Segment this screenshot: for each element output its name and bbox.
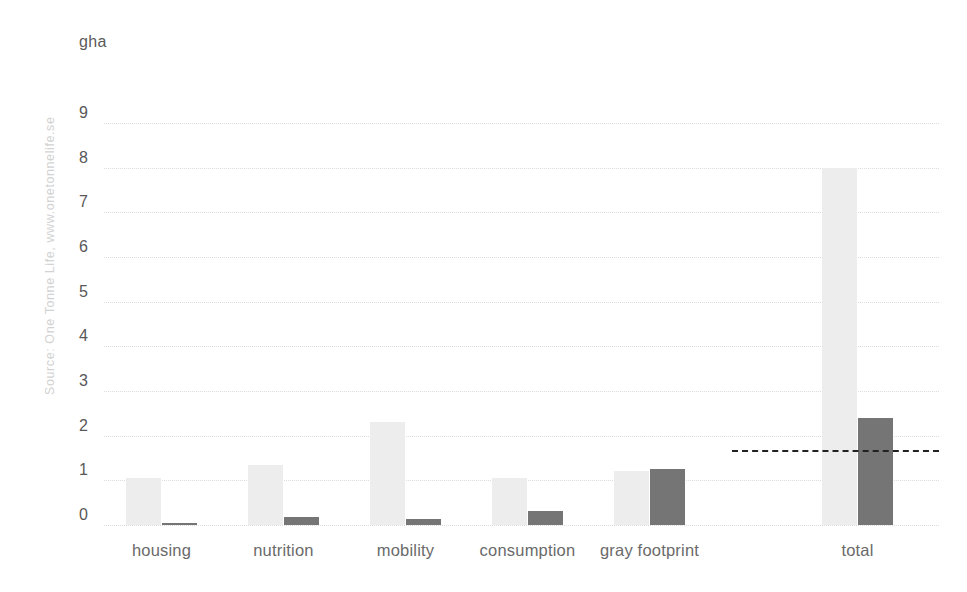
bar (162, 523, 197, 525)
bar-chart: Source: One Tonne Life, www.onetonnelife… (0, 0, 967, 592)
bar-group (492, 123, 563, 525)
bar (406, 519, 441, 525)
y-tick-label-8: 8 (79, 149, 99, 167)
bar-group (126, 123, 197, 525)
bar-group (370, 123, 441, 525)
bar (528, 511, 563, 525)
bar (614, 471, 649, 525)
x-tick-label: gray footprint (550, 541, 750, 560)
y-tick-label-9: 9 (79, 104, 99, 122)
bar (822, 168, 857, 525)
bar (248, 465, 283, 525)
y-axis-unit-label: gha (79, 33, 107, 51)
bar (492, 478, 527, 525)
x-tick-label: total (758, 541, 958, 560)
reference-line (732, 450, 939, 452)
y-tick-label-6: 6 (79, 238, 99, 256)
y-tick-label-2: 2 (79, 417, 99, 435)
y-tick-label-5: 5 (79, 283, 99, 301)
y-tick-label-4: 4 (79, 327, 99, 345)
y-tick-label-7: 7 (79, 193, 99, 211)
bar (370, 422, 405, 525)
bar (650, 469, 685, 525)
bars-layer (104, 123, 939, 525)
gridline-0 (104, 525, 939, 526)
bar-group (248, 123, 319, 525)
plot-area (104, 123, 939, 525)
y-tick-label-3: 3 (79, 372, 99, 390)
y-tick-label-1: 1 (79, 461, 99, 479)
bar-group (614, 123, 685, 525)
source-credit: Source: One Tonne Life, www.onetonnelife… (40, 95, 60, 395)
bar (126, 478, 161, 525)
bar (284, 517, 319, 525)
bar (858, 418, 893, 525)
bar-group (822, 123, 893, 525)
y-tick-label-0: 0 (79, 506, 99, 524)
